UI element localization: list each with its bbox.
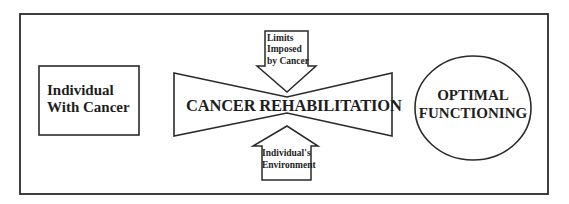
environment-label-line1: Individual's [262, 147, 316, 159]
optimal-label: OPTIMAL FUNCTIONING [415, 86, 531, 122]
environment-label-line2: Environment [262, 159, 316, 171]
optimal-label-line2: FUNCTIONING [415, 104, 531, 122]
limits-label-line1: Limits [267, 33, 309, 44]
individual-label: Individual With Cancer [47, 82, 130, 117]
individual-label-line2: With Cancer [47, 99, 130, 116]
limits-label-line3: by Cancer [267, 56, 309, 67]
environment-label: Individual's Environment [262, 147, 316, 172]
optimal-label-line1: OPTIMAL [415, 86, 531, 104]
rehabilitation-label: CANCER REHABILITATION [186, 97, 402, 116]
limits-label-line2: Imposed [267, 44, 309, 55]
individual-label-line1: Individual [47, 82, 130, 99]
limits-label: Limits Imposed by Cancer [267, 33, 309, 67]
